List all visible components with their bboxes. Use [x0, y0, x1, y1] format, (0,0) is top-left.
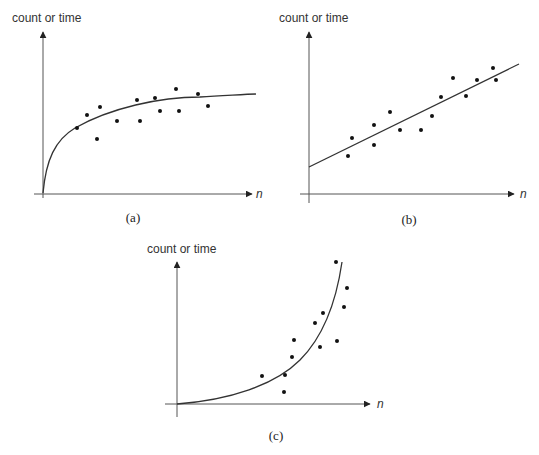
- x-axis-label: n: [377, 397, 384, 411]
- data-point: [451, 76, 455, 80]
- panel-b: count or time n (b): [279, 11, 527, 227]
- data-point: [282, 390, 286, 394]
- data-point: [419, 128, 423, 132]
- data-point: [350, 136, 354, 140]
- data-point: [95, 137, 99, 141]
- data-point: [334, 260, 338, 264]
- y-axis-label: count or time: [12, 11, 82, 25]
- caption: (a): [126, 210, 140, 225]
- data-point: [345, 286, 349, 290]
- figure: count or time n (a) count or time n (b) …: [0, 0, 539, 455]
- trend-curve: [43, 94, 256, 193]
- trend-line: [309, 64, 519, 167]
- data-point: [464, 94, 468, 98]
- x-axis-label: n: [520, 187, 527, 201]
- data-point: [372, 143, 376, 147]
- data-point: [335, 339, 339, 343]
- data-point: [321, 311, 325, 315]
- data-point: [372, 123, 376, 127]
- data-point: [491, 66, 495, 70]
- data-point: [196, 92, 200, 96]
- data-point: [260, 374, 264, 378]
- data-points: [75, 87, 210, 141]
- data-point: [290, 355, 294, 359]
- y-axis-label: count or time: [147, 242, 217, 256]
- trend-curve: [177, 262, 342, 404]
- data-point: [98, 105, 102, 109]
- panel-c: count or time n (c): [147, 242, 384, 443]
- data-point: [135, 98, 139, 102]
- data-point: [283, 373, 287, 377]
- data-point: [398, 128, 402, 132]
- data-point: [138, 119, 142, 123]
- data-point: [75, 126, 79, 130]
- data-point: [342, 305, 346, 309]
- data-points: [260, 260, 349, 394]
- data-point: [430, 114, 434, 118]
- data-point: [346, 154, 350, 158]
- data-point: [318, 345, 322, 349]
- caption: (c): [269, 428, 283, 443]
- data-point: [177, 109, 181, 113]
- data-point: [115, 119, 119, 123]
- data-point: [174, 87, 178, 91]
- caption: (b): [401, 212, 416, 227]
- y-axis-label: count or time: [279, 11, 349, 25]
- data-point: [439, 95, 443, 99]
- x-axis-label: n: [256, 187, 263, 201]
- data-point: [313, 321, 317, 325]
- data-point: [85, 113, 89, 117]
- data-point: [158, 109, 162, 113]
- data-point: [153, 96, 157, 100]
- data-point: [292, 338, 296, 342]
- data-point: [494, 78, 498, 82]
- data-point: [475, 78, 479, 82]
- data-point: [388, 110, 392, 114]
- data-point: [206, 104, 210, 108]
- panel-a: count or time n (a): [12, 11, 263, 225]
